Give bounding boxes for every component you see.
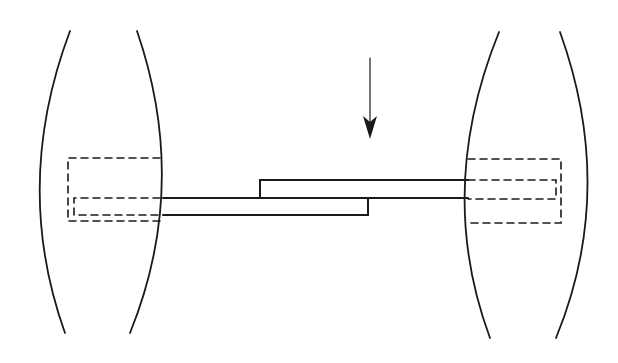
left-lens-body xyxy=(40,31,162,333)
upper-stepped-strip xyxy=(163,180,468,198)
left-lens-outer-arc xyxy=(40,31,70,333)
lower-stepped-strip xyxy=(163,198,368,215)
right-dashed-embedded-region xyxy=(468,159,561,223)
right-lens-outer-arc xyxy=(556,32,588,338)
right-outer-dashed-box xyxy=(468,159,561,223)
left-dashed-embedded-region xyxy=(68,158,160,221)
left-lens-inner-arc xyxy=(130,31,162,333)
diagram-svg xyxy=(0,0,618,363)
lower-strip-outline xyxy=(163,198,368,215)
left-inner-dashed-box xyxy=(74,198,160,215)
downward-force-arrow xyxy=(363,58,377,139)
right-lens-body xyxy=(465,32,588,338)
upper-strip-outline xyxy=(163,180,468,198)
right-inner-dashed-box xyxy=(468,180,556,199)
diagram-canvas: Two lens-shaped (biconvex) bodies connec… xyxy=(0,0,618,363)
right-lens-inner-arc xyxy=(465,32,499,338)
left-outer-dashed-box xyxy=(68,158,160,221)
